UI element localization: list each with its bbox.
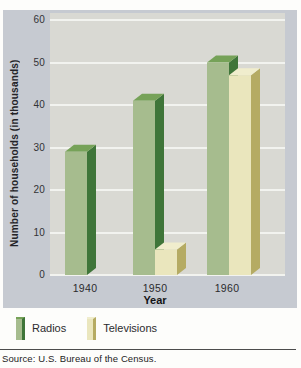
legend-label-radios: Radios [32, 322, 66, 334]
legend-icon-televisions [87, 317, 96, 340]
legend-label-televisions: Televisions [103, 322, 157, 334]
y-tick-label-60: 60 [14, 14, 45, 25]
gridline-0 [50, 274, 285, 276]
x-tick-label-1960: 1960 [215, 282, 240, 294]
y-axis-title: Number of households (in thousands) [7, 28, 22, 278]
gridline-10 [50, 232, 285, 234]
figure: 0102030405060 Number of households (in t… [0, 0, 301, 368]
x-axis-title: Year [143, 294, 166, 306]
plot-area [50, 13, 285, 275]
legend-icon-radios [16, 317, 25, 340]
source-divider-line [0, 349, 296, 350]
gridline-60 [50, 19, 285, 21]
gridline-40 [50, 104, 285, 106]
x-tick-label-1950: 1950 [143, 282, 168, 294]
x-tick-label-1940: 1940 [73, 282, 98, 294]
gridline-20 [50, 189, 285, 191]
gridline-50 [50, 62, 285, 64]
legend: RadiosTelevisions [16, 316, 178, 340]
gridline-30 [50, 147, 285, 149]
source-note: Source: U.S. Bureau of the Census. [2, 353, 156, 364]
